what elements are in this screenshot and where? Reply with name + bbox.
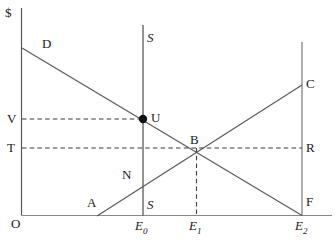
quantity-axis-label-E2-sub: 2 (303, 226, 308, 236)
demand-curve-label: D (42, 37, 51, 50)
supply-vertical-label-bottom: S (147, 198, 154, 211)
point-label-N: N (122, 168, 131, 181)
point-marker-U (139, 115, 147, 123)
quantity-axis-label-E1-sub: 1 (197, 226, 202, 236)
demand-curve (22, 48, 302, 216)
supply-demand-figure: $ O D S S U B N A C R F V T E0 E1 E2 (0, 0, 336, 243)
point-label-F: F (306, 195, 313, 208)
quantity-axis-label-E1-base: E (189, 218, 197, 233)
quantity-axis-label-E2: E2 (295, 219, 307, 236)
y-axis-currency-label: $ (5, 6, 12, 19)
quantity-axis-label-E2-base: E (295, 218, 303, 233)
point-label-R: R (306, 141, 315, 154)
point-label-U: U (151, 111, 160, 124)
origin-label: O (11, 217, 20, 230)
quantity-axis-label-E1: E1 (189, 219, 201, 236)
supply-curve (97, 85, 302, 216)
price-axis-label-T: T (7, 141, 15, 154)
price-axis-label-V: V (7, 112, 16, 125)
quantity-axis-label-E0-base: E (135, 218, 143, 233)
quantity-axis-label-E0-sub: 0 (143, 226, 148, 236)
quantity-axis-label-E0: E0 (135, 219, 147, 236)
point-label-B: B (190, 133, 199, 146)
supply-vertical-label-top: S (147, 31, 154, 44)
point-label-A: A (87, 196, 96, 209)
point-label-C: C (306, 77, 315, 90)
